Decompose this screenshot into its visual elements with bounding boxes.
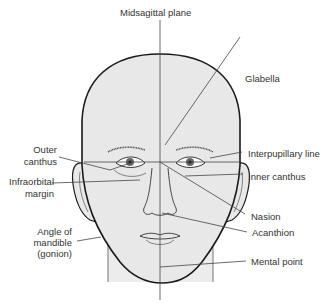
label-midsagittal-plane: Midsagittal plane <box>120 7 191 18</box>
label-angle-of-mandible-1: Angle of <box>37 226 72 237</box>
label-angle-of-mandible-2: mandible <box>33 237 72 248</box>
label-acanthion: Acanthion <box>252 227 294 238</box>
label-interpupillary-line: Interpupillary line <box>248 148 320 159</box>
label-inner-canthus: Inner canthus <box>248 171 306 182</box>
label-outer-canthus-1: Outer <box>33 144 57 155</box>
label-mental-point: Mental point <box>251 256 303 267</box>
label-infraorbital-margin-1: Infraorbital <box>9 176 54 187</box>
label-outer-canthus-2: canthus <box>24 156 57 167</box>
label-angle-of-mandible-3: (gonion) <box>37 248 72 259</box>
label-infraorbital-margin-2: margin <box>25 188 54 199</box>
label-glabella: Glabella <box>245 73 280 84</box>
label-nasion: Nasion <box>251 211 281 222</box>
